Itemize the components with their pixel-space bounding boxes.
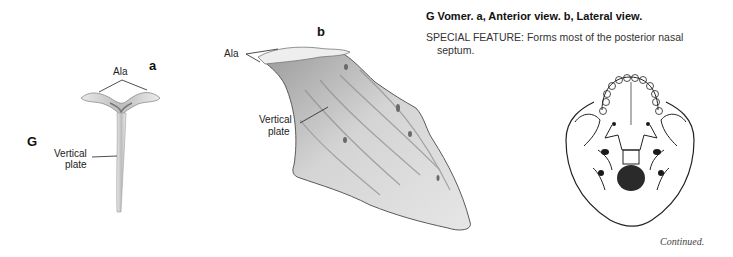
vertical-plate-anterior-shape	[117, 113, 126, 212]
figure-caption-title: G Vomer. a, Anterior view. b, Lateral vi…	[426, 10, 642, 22]
vertical-plate-label-lateral-line2: plate	[268, 126, 290, 137]
view-a-letter: a	[149, 58, 156, 73]
view-b-letter: b	[317, 24, 325, 39]
skull-inferior-view	[566, 75, 694, 227]
ala-label-anterior: Ala	[113, 66, 127, 77]
vertical-plate-label-lateral-line1: Vertical	[259, 114, 292, 125]
continued-note: Continued.	[660, 236, 704, 247]
special-feature-text-continued: septum.	[437, 44, 474, 57]
ala-label-lateral: Ala	[224, 48, 238, 59]
foramen-magnum	[617, 165, 645, 191]
special-feature-text: SPECIAL FEATURE: Forms most of the poste…	[426, 31, 683, 44]
vertical-plate-label-anterior-line1: Vertical	[54, 148, 87, 159]
vertical-plate-label-anterior-line2: plate	[65, 159, 87, 170]
figure-letter: G	[27, 134, 37, 149]
